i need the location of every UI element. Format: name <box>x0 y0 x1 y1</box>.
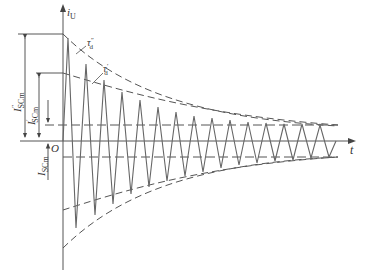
origin-label: O <box>51 142 59 154</box>
subtransient-peak-label: I″SCm <box>10 92 26 113</box>
subtransient-tau-label: τ″d <box>87 36 94 51</box>
transient-peak-label: I′SCm <box>24 106 40 126</box>
t-axis-label: t <box>350 143 354 157</box>
short-circuit-waveform-diagram: iU t O τ″d τ′d I″SCm I′SCm ISCm <box>0 0 366 275</box>
transient-tau-label: τ′d <box>103 62 109 77</box>
y-axis-label: iU <box>67 6 76 21</box>
